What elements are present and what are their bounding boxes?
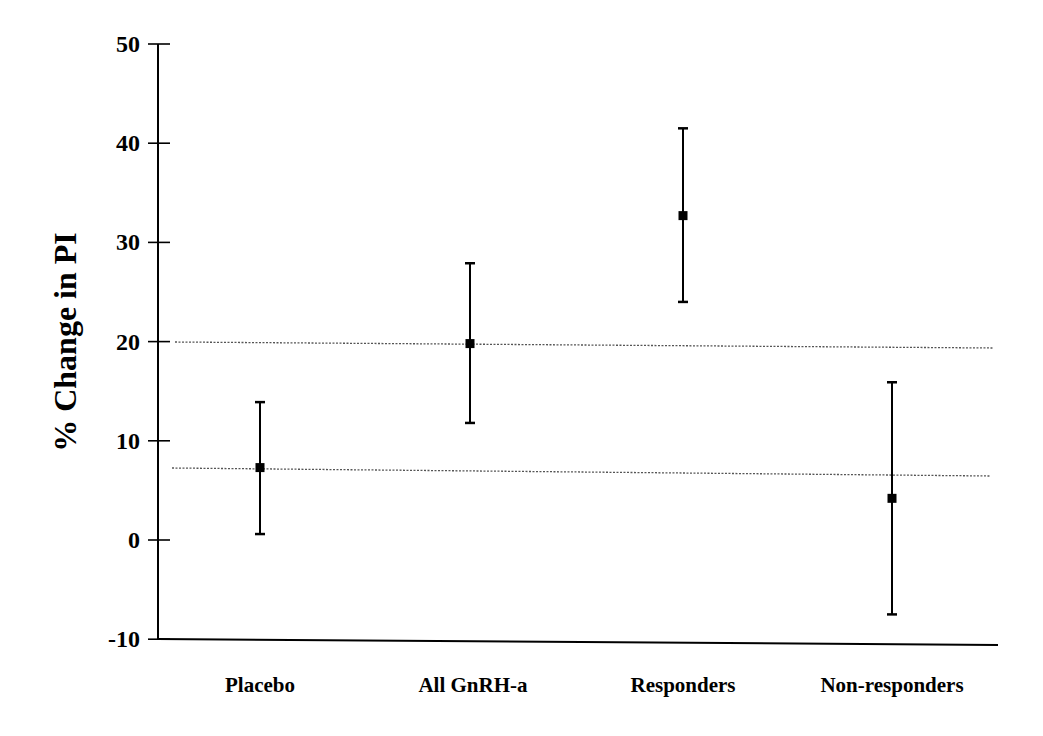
category-label: Responders xyxy=(630,673,735,697)
y-axis-ticks: -1001020304050 xyxy=(108,31,170,652)
square-marker xyxy=(256,463,265,472)
reference-line xyxy=(172,468,990,476)
data-series xyxy=(255,128,897,614)
x-axis-line xyxy=(157,639,998,645)
data-point-placebo xyxy=(255,402,265,534)
y-tick-label: 40 xyxy=(116,130,140,156)
data-point-non-responders xyxy=(887,382,897,614)
category-labels: PlaceboAll GnRH-aRespondersNon-responder… xyxy=(225,673,964,697)
reference-line xyxy=(175,342,993,348)
square-marker xyxy=(466,339,475,348)
square-marker xyxy=(679,211,688,220)
y-tick-label: 10 xyxy=(116,428,140,454)
y-tick-label: 20 xyxy=(116,329,140,355)
reference-lines xyxy=(172,342,993,476)
data-point-responders xyxy=(678,128,688,302)
y-tick-label: 30 xyxy=(116,229,140,255)
y-tick-label: 0 xyxy=(128,527,140,553)
data-point-all-gnrh-a xyxy=(465,263,475,423)
x-axis xyxy=(157,639,998,645)
error-bar-chart: -1001020304050 PlaceboAll GnRH-aResponde… xyxy=(0,0,1043,736)
category-label: All GnRH-a xyxy=(418,673,528,697)
y-axis-title: % Change in PI xyxy=(47,232,83,452)
category-label: Non-responders xyxy=(820,673,963,697)
y-tick-label: 50 xyxy=(116,31,140,57)
y-tick-label: -10 xyxy=(108,626,140,652)
square-marker xyxy=(888,494,897,503)
category-label: Placebo xyxy=(225,673,295,697)
